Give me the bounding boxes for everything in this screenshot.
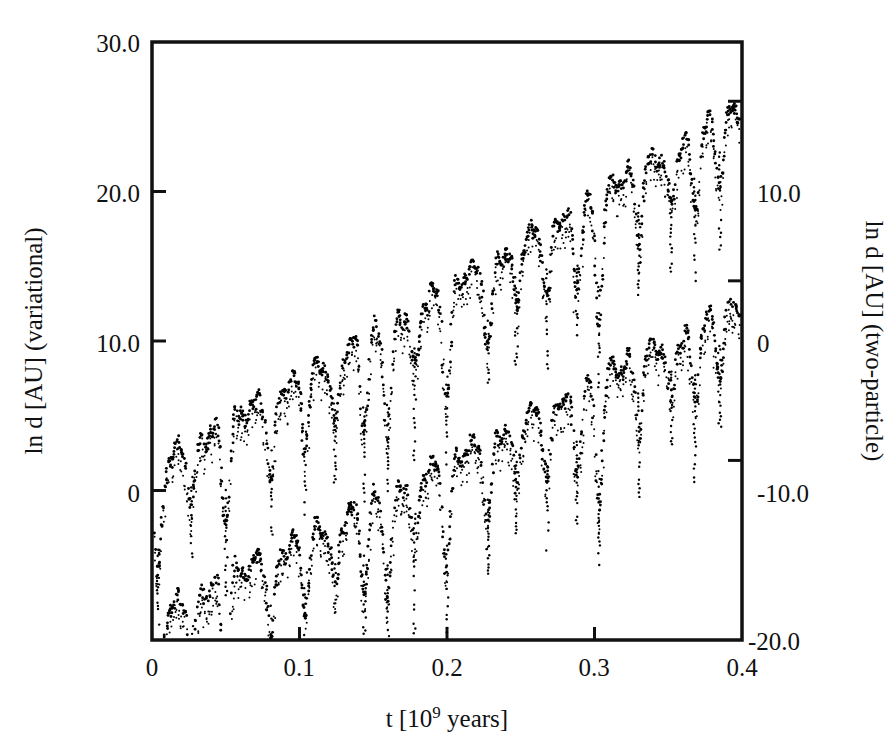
y-axis-left-title: ln d [AU] (variational) (20, 227, 48, 454)
x-tick-label-4: 0.4 (726, 654, 758, 681)
x-axis-title-exponent: 9 (432, 703, 441, 722)
y-right-tick-label-neg10: -10.0 (757, 480, 809, 507)
figure-container: 0 0.1 0.2 0.3 0.4 30.0 20.0 10.0 0 10.0 … (0, 0, 896, 751)
scatter-plot: 0 0.1 0.2 0.3 0.4 30.0 20.0 10.0 0 10.0 … (0, 0, 896, 751)
x-tick-label-1: 0.1 (283, 654, 314, 681)
y-right-tick-label-10: 10.0 (757, 180, 801, 207)
y-axis-right-title: ln d [AU] (two-particle) (860, 221, 888, 462)
x-tick-label-0: 0 (146, 654, 159, 681)
x-axis-title-base: t [10 (386, 705, 433, 732)
y-left-tick-label-20: 20.0 (96, 180, 140, 207)
x-tick-label-3: 0.3 (578, 654, 609, 681)
y-left-tick-label-0: 0 (128, 480, 141, 507)
x-axis-title: t [109 years] (386, 703, 508, 732)
y-right-tick-label-0: 0 (757, 330, 770, 357)
y-right-tick-label-neg20: -20.0 (748, 628, 800, 655)
x-tick-label-2: 0.2 (431, 654, 462, 681)
x-axis-title-tail: years] (441, 705, 508, 732)
y-left-tick-label-10: 10.0 (96, 330, 140, 357)
y-left-tick-label-30: 30.0 (96, 30, 140, 57)
